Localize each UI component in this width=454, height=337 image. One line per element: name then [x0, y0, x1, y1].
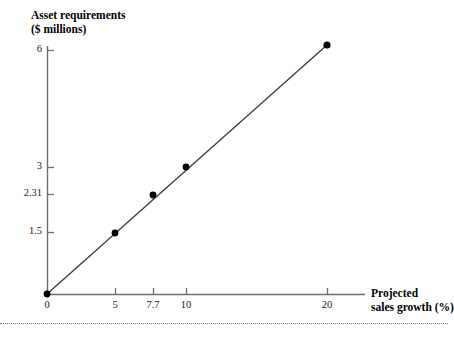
data-point-20: [323, 41, 330, 48]
data-point-5: [112, 230, 119, 237]
bottom-divider: [0, 323, 448, 324]
data-point-7-7: [150, 192, 157, 199]
data-point-0: [44, 291, 51, 298]
data-point-10: [183, 164, 190, 171]
